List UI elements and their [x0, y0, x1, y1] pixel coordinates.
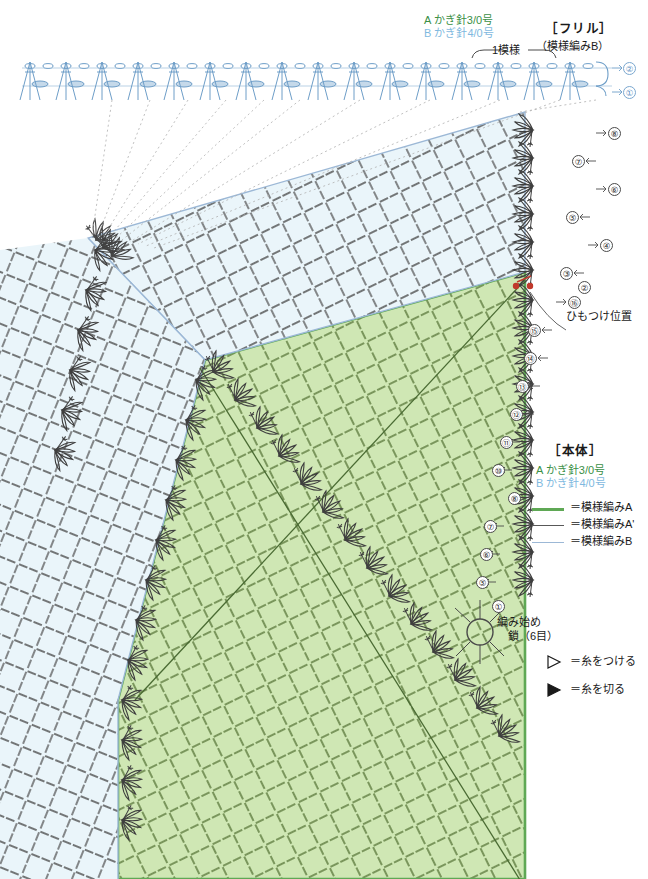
row-number-upper-4: ④: [600, 239, 613, 252]
cut-yarn-icon: [546, 683, 562, 697]
body-hook-a-label: A かぎ針3/0号: [536, 464, 605, 478]
row-number-upper-5: ⑤: [566, 211, 579, 224]
attach-yarn-label: ＝糸をつける: [570, 655, 636, 669]
crochet-chart-page: A かぎ針3/0号 B かぎ針4/0号 ［フリル］ （模様編みB） 1模様 ② …: [0, 0, 648, 879]
row-number-lower-8: ⑧: [508, 492, 521, 505]
row-number-middle-11: ⑪: [500, 436, 513, 449]
start-note-line-2: 鎖（6目）: [508, 630, 558, 644]
row-number-upper-6: ⑥: [608, 183, 621, 196]
pattern-diagram: [0, 0, 648, 879]
legend-label-pattern-a: ＝模様編みA: [570, 501, 632, 515]
row-number-middle-12: ⑫: [510, 408, 523, 421]
row-number-upper-2: ②: [578, 281, 591, 294]
frill-chart: [20, 62, 612, 100]
legend-swatch-pattern-a: [532, 508, 564, 511]
row-number-lower-5: ⑤: [476, 576, 489, 589]
frill-row-number-1: ①: [623, 86, 636, 99]
row-number-upper-7: ⑦: [572, 155, 585, 168]
row-arrows-upper: [574, 130, 606, 276]
frill-hook-b-label: B かぎ針4/0号: [424, 27, 494, 41]
cut-yarn-label: ＝糸を切る: [570, 683, 625, 697]
frill-section-subtitle: （模様編みB）: [536, 40, 609, 54]
body-section-title: ［本体］: [548, 444, 602, 460]
frill-row-arrows: [612, 65, 622, 95]
row-number-upper-3: ③: [560, 267, 573, 280]
row-number-middle-13: ⑬: [516, 380, 529, 393]
start-note-line-1: 編み始め: [497, 616, 541, 630]
row-number-middle-14: ⑭: [524, 352, 537, 365]
cord-attachment-note: ひもつけ位置: [566, 310, 632, 324]
frill-row-number-2: ②: [623, 62, 636, 75]
row-number-lower-1: ①: [492, 600, 505, 613]
legend-swatch-pattern-a-prime: [532, 525, 564, 526]
legend-swatch-pattern-b: [532, 542, 564, 543]
row-number-middle-15: ⑮: [528, 324, 541, 337]
frill-hook-a-label: A かぎ針3/0号: [424, 14, 493, 28]
row-number-lower-7: ⑦: [484, 520, 497, 533]
legend-label-pattern-b: ＝模様編みB: [570, 535, 632, 549]
legend-label-pattern-a-prime: ＝模様編みA': [570, 518, 634, 532]
repeat-label: 1模様: [492, 44, 520, 58]
frill-section-title: ［フリル］: [545, 22, 613, 38]
attach-yarn-icon: [546, 655, 562, 669]
row-number-lower-6: ⑥: [480, 548, 493, 561]
row-number-middle-10: ⑩: [492, 464, 505, 477]
row-number-upper-8: ⑧: [608, 127, 621, 140]
body-hook-b-label: B かぎ針4/0号: [536, 477, 606, 491]
row-number-middle-16: ⑯: [568, 296, 581, 309]
